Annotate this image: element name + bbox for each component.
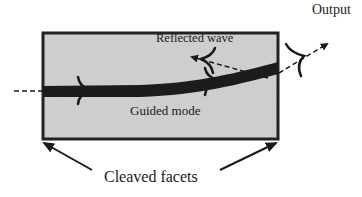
right-facet-arrow [220,143,276,170]
cleaved-facets-label: Cleaved facets [104,168,198,186]
guided-mode-label: Guided mode [130,103,200,119]
waveguide-diagram: Output Reflected wave Guided mode Cleave… [0,0,362,197]
output-wavefront-icon [286,44,304,76]
left-facet-arrow [44,143,92,170]
output-label: Output [312,2,351,18]
reflected-wave-label: Reflected wave [156,31,233,46]
